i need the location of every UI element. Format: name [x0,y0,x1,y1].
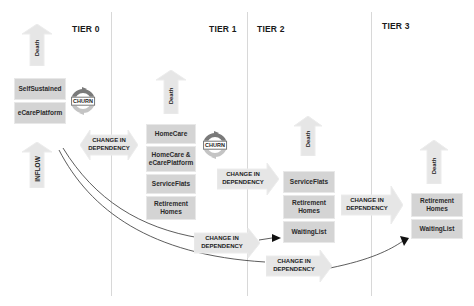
curve-tier0-to-tier2-end [259,238,272,240]
box-homecare: HomeCare [146,124,196,144]
death-label: Death [305,131,311,148]
curve-tier0-to-tier3-end [330,241,403,268]
box-retirement-homes: Retirement Homes [283,195,335,219]
box-serviceflats: ServiceFlats [283,171,335,193]
inflow-arrow: INFLOW [22,142,52,188]
box-serviceflats: ServiceFlats [146,174,196,194]
tier-flow-diagram: TIER 0 TIER 1 TIER 2 TIER 3 Death SelfSu… [0,0,474,306]
death-label: Death [431,157,437,174]
inflow-label: INFLOW [34,156,41,182]
change-dependency-arrow-t0-t2: CHANGE IN DEPENDENCY [194,228,260,258]
death-arrow-tier3: Death [420,140,448,184]
change-dependency-arrow-t0-t1: CHANGE IN DEPENDENCY [80,130,138,160]
arrowhead-tier3 [400,236,409,246]
change-dependency-label: CHANGE IN DEPENDENCY [266,250,332,282]
box-waitinglist: WaitingList [411,219,463,239]
change-dependency-arrow-t2-t3: CHANGE IN DEPENDENCY [341,186,403,224]
change-dependency-arrow-t0-t3: CHANGE IN DEPENDENCY [266,250,332,282]
box-selfsustained: SelfSustained [14,78,66,100]
churn-label: CHURN [71,97,95,106]
box-waitinglist: WaitingList [283,221,335,243]
box-retirement-homes: Retirement Homes [411,193,463,217]
death-arrow-tier1: Death [156,70,186,114]
arrowhead-tier2 [272,234,281,242]
box-homecare-ecareplatform: HomeCare & eCarePlatform [146,146,196,172]
death-label: Death [34,40,40,57]
death-label: Death [168,87,174,104]
change-dependency-label: CHANGE IN DEPENDENCY [194,228,260,258]
churn-cycle-tier0: CHURN [68,86,98,116]
box-ecareplatform: eCarePlatform [14,102,66,124]
change-dependency-arrow-t1-t2: CHANGE IN DEPENDENCY [217,163,279,195]
churn-cycle-tier1: CHURN [200,130,230,160]
connector-lines [0,0,474,306]
death-arrow-tier0: Death [22,24,52,66]
change-dependency-label: CHANGE IN DEPENDENCY [341,186,403,224]
change-dependency-label: CHANGE IN DEPENDENCY [217,163,279,195]
churn-label: CHURN [203,141,227,150]
box-retirement-homes: Retirement Homes [146,196,196,220]
change-dependency-label: CHANGE IN DEPENDENCY [80,130,138,160]
death-arrow-tier2: Death [294,116,322,156]
